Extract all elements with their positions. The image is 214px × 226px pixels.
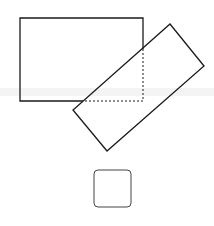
rounded-square-shape xyxy=(94,170,131,207)
diagram-canvas xyxy=(0,0,214,226)
rectangle-shape xyxy=(20,18,143,101)
rotated-rectangle-shape xyxy=(73,24,204,151)
